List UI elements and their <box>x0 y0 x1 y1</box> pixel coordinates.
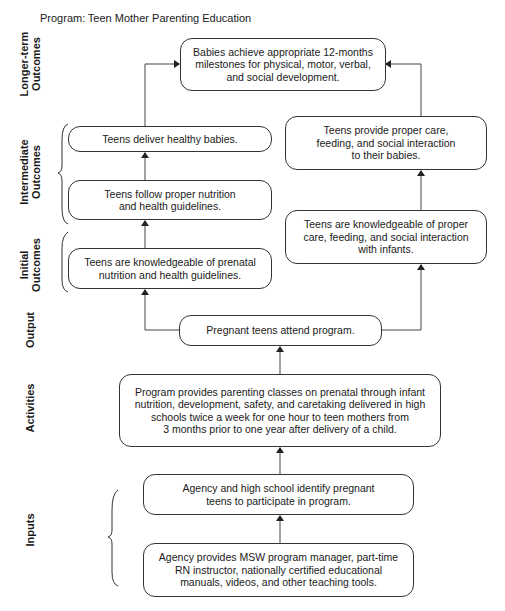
box-intermediate-follow-nutrition: Teens follow proper nutrition and health… <box>68 180 272 220</box>
box-intermediate-deliver-babies: Teens deliver healthy babies. <box>68 126 272 152</box>
box-output-attend-program: Pregnant teens attend program. <box>179 315 382 346</box>
box-intermediate-provide-care: Teens provide proper care, feeding, and … <box>285 116 487 170</box>
stage-label-inputs: Inputs <box>24 514 36 547</box>
stage-label-activities: Activities <box>24 384 36 433</box>
box-initial-prenatal-knowledge: Teens are knowledgeable of prenatal nutr… <box>68 248 272 289</box>
box-inputs-agency-resources: Agency provides MSW program manager, par… <box>143 543 414 597</box>
connector-lines <box>0 0 505 611</box>
stage-label-intermediate: Intermediate Outcomes <box>18 139 42 204</box>
stage-label-output: Output <box>24 312 36 348</box>
box-longer-term-outcome: Babies achieve appropriate 12-months mil… <box>180 38 386 91</box>
box-initial-care-knowledge: Teens are knowledgeable of proper care, … <box>285 210 487 264</box>
box-inputs-identify-teens: Agency and high school identify pregnant… <box>143 474 414 515</box>
stage-label-initial: Initial Outcomes <box>18 238 42 292</box>
stage-label-longer-term: Longer-term Outcomes <box>18 32 42 97</box>
box-activities-parenting-classes: Program provides parenting classes on pr… <box>119 374 441 447</box>
